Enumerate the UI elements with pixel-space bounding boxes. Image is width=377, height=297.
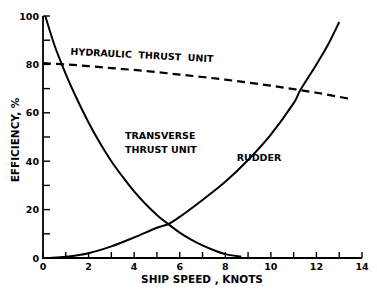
y-tick-label: 0 <box>32 253 39 264</box>
x-ticks: 02468101214 <box>40 252 369 272</box>
y-tick-label: 100 <box>19 11 39 22</box>
x-axis-label: SHIP SPEED , KNOTS <box>141 273 263 285</box>
x-tick-label: 14 <box>355 261 369 272</box>
y-tick-label: 20 <box>26 204 40 215</box>
x-tick-label: 8 <box>222 261 229 272</box>
x-tick-label: 12 <box>310 261 323 272</box>
y-axis-label: EFFICIENCY, % <box>9 97 21 182</box>
annotation-label: THRUST UNIT <box>125 144 197 155</box>
annotation-label: TRANSVERSE <box>125 130 195 141</box>
y-tick-label: 80 <box>26 59 40 70</box>
efficiency-chart: 02468101214 020406080100 HYDRAULIC THRUS… <box>0 0 377 297</box>
x-tick-label: 6 <box>176 261 183 272</box>
annotation-label: HYDRAULIC THRUST UNIT <box>70 46 214 64</box>
annotation-label: RUDDER <box>237 152 282 163</box>
x-tick-label: 10 <box>264 261 278 272</box>
y-tick-label: 60 <box>26 107 40 118</box>
x-tick-label: 0 <box>40 261 47 272</box>
x-tick-label: 2 <box>85 261 92 272</box>
y-tick-label: 40 <box>26 156 40 167</box>
series-hydraulic-thrust-unit <box>43 63 351 99</box>
x-tick-label: 4 <box>131 261 138 272</box>
y-ticks: 020406080100 <box>19 11 50 264</box>
